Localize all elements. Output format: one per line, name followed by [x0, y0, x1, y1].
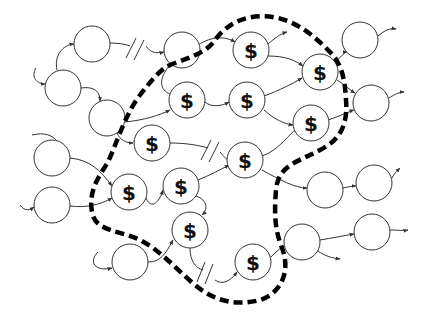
node-circle	[354, 214, 390, 250]
edge	[198, 165, 229, 180]
node-circle	[34, 187, 70, 223]
dollar-node: $	[111, 174, 147, 210]
dollar-node: $	[229, 82, 265, 118]
dollar-icon: $	[145, 132, 159, 156]
empty-node	[74, 26, 110, 62]
network-diagram: $$$$$$$$$$$	[0, 0, 429, 323]
dollar-node: $	[163, 168, 199, 204]
edge	[215, 272, 237, 282]
edge	[196, 196, 206, 215]
edge	[220, 152, 227, 160]
dollar-icon: $	[240, 89, 254, 113]
dollar-node: $	[293, 105, 329, 141]
empty-node	[34, 140, 70, 176]
dollar-icon: $	[244, 39, 258, 63]
empty-node	[34, 187, 70, 223]
edge	[190, 248, 203, 270]
empty-node	[307, 172, 343, 208]
edge	[117, 133, 133, 143]
edge	[205, 102, 229, 106]
edge	[264, 78, 302, 96]
node-circle	[342, 22, 378, 58]
edge	[268, 32, 287, 44]
node-circle	[45, 70, 81, 106]
edge	[343, 186, 356, 188]
edge	[378, 29, 396, 36]
node-circle	[353, 85, 389, 121]
edge	[125, 110, 170, 122]
empty-node	[354, 214, 390, 250]
dollar-icon: $	[122, 181, 136, 205]
node-circle	[34, 140, 70, 176]
edge	[170, 143, 208, 148]
dollar-icon: $	[174, 175, 188, 199]
dollar-node: $	[233, 32, 269, 68]
node-circle	[74, 26, 110, 62]
empty-node	[353, 85, 389, 121]
empty-node	[284, 224, 320, 260]
edge	[81, 88, 100, 101]
edge	[264, 110, 293, 125]
dollar-node: $	[235, 244, 271, 280]
dollar-icon: $	[246, 251, 260, 275]
dollar-icon: $	[304, 112, 318, 136]
edge	[146, 46, 164, 53]
edge	[320, 234, 354, 240]
edge	[110, 43, 130, 46]
dollar-node: $	[172, 212, 208, 248]
edge	[34, 68, 45, 84]
empty-node	[45, 70, 81, 106]
node-circle	[356, 165, 392, 201]
empty-node	[356, 165, 392, 201]
edge	[392, 168, 400, 178]
dollar-icon: $	[183, 219, 197, 243]
node-circle	[112, 244, 148, 280]
edge	[20, 205, 34, 210]
edge	[268, 56, 303, 66]
node-circle	[307, 172, 343, 208]
edge	[70, 158, 112, 186]
dollar-node: $	[169, 82, 205, 118]
edges	[20, 29, 408, 283]
break-marker	[201, 140, 219, 162]
edge	[328, 110, 354, 120]
edge	[318, 251, 340, 259]
edge	[56, 44, 74, 70]
edge	[262, 130, 296, 156]
edge	[93, 252, 112, 269]
dollar-icon: $	[180, 89, 194, 113]
empty-node	[342, 22, 378, 58]
dollar-node: $	[302, 54, 338, 90]
node-circle	[284, 224, 320, 260]
edge	[389, 92, 404, 98]
dollar-icon: $	[313, 61, 327, 85]
dollar-node: $	[227, 142, 263, 178]
edge	[146, 190, 163, 204]
dollar-node: $	[134, 125, 170, 161]
break-marker	[197, 262, 213, 284]
empty-node	[112, 244, 148, 280]
break-marker	[126, 38, 144, 60]
dollar-icon: $	[238, 149, 252, 173]
